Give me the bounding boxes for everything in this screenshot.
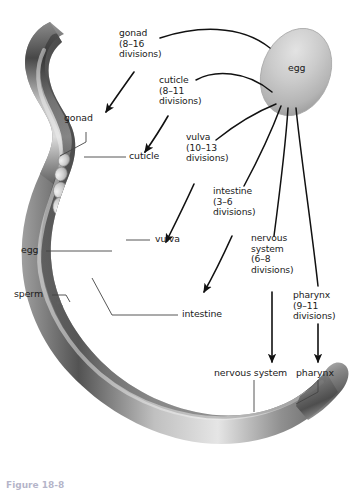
anatomy-label-nervous-system: nervous system: [214, 368, 287, 379]
figure-caption: Figure 18-8: [6, 480, 64, 490]
line-to-intestine: [244, 106, 281, 186]
arrow-cuticle-down: [145, 116, 168, 152]
anatomy-label-egg: egg: [21, 245, 38, 256]
arrow-gonad-down: [106, 72, 134, 112]
division-label-gonad: gonad (8–16 divisions): [119, 28, 162, 60]
division-label-nervous-system: nervous system (6–8 divisions): [251, 233, 294, 275]
line-to-pharynx: [296, 108, 318, 286]
anatomy-label-pharynx: pharynx: [296, 368, 334, 379]
anatomy-label-cuticle: cuticle: [129, 151, 159, 162]
arc-to-gonad: [160, 29, 270, 48]
anatomy-label-gonad: gonad: [64, 113, 93, 124]
leader-intestine: [92, 278, 178, 315]
division-label-pharynx: pharynx (9–11 divisions): [293, 290, 336, 322]
anatomy-label-intestine: intestine: [182, 309, 222, 320]
arc-to-cuticle: [196, 74, 272, 92]
arrow-intestine-down: [204, 236, 232, 292]
leader-pharynx: [296, 380, 318, 404]
anatomy-label-vulva: vulva: [155, 234, 180, 245]
line-to-nervous-system: [274, 108, 288, 236]
division-label-intestine: intestine (3–6 divisions): [213, 186, 256, 218]
leader-sperm: [52, 295, 70, 302]
division-label-cuticle: cuticle (8–11 divisions): [159, 75, 202, 107]
anatomy-label-sperm: sperm: [14, 289, 43, 300]
leader-gonad: [60, 132, 86, 156]
division-label-vulva: vulva (10–13 divisions): [186, 132, 229, 164]
egg-label: egg: [288, 63, 305, 74]
